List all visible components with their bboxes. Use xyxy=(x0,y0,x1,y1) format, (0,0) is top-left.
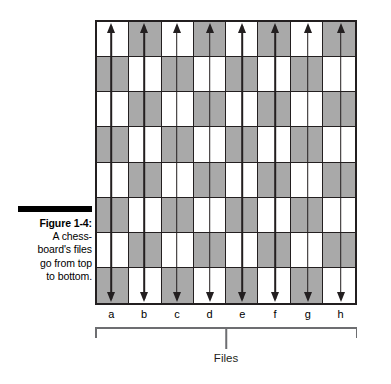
board-square xyxy=(291,268,323,303)
board-square xyxy=(194,92,226,127)
board-square xyxy=(323,268,355,303)
board-square xyxy=(162,233,194,268)
board-square xyxy=(323,22,355,57)
bracket-tick-right xyxy=(356,327,358,338)
board-square xyxy=(291,233,323,268)
board-square xyxy=(323,127,355,162)
caption-line-2: board's files xyxy=(38,243,92,255)
board-square xyxy=(129,57,161,92)
board-square xyxy=(323,92,355,127)
board-square xyxy=(194,233,226,268)
board-square xyxy=(291,22,323,57)
board-square xyxy=(226,92,258,127)
caption-line-1: A chess- xyxy=(53,230,92,242)
file-label-row: abcdefgh xyxy=(95,307,357,321)
board-square xyxy=(194,198,226,233)
board-square xyxy=(162,57,194,92)
figure-number-label: Figure 1-4: xyxy=(39,217,92,229)
file-label-b: b xyxy=(128,307,161,321)
board-square xyxy=(194,268,226,303)
chessboard xyxy=(95,20,357,305)
file-label-h: h xyxy=(324,307,357,321)
files-bracket xyxy=(95,327,357,341)
figure-caption-text: Figure 1-4: A chess- board's files go fr… xyxy=(18,217,92,283)
board-square xyxy=(129,268,161,303)
caption-rule xyxy=(18,206,92,212)
board-square xyxy=(129,198,161,233)
board-square xyxy=(258,198,290,233)
file-label-g: g xyxy=(292,307,325,321)
board-square xyxy=(97,22,129,57)
board-square xyxy=(162,268,194,303)
board-square xyxy=(323,198,355,233)
board-square xyxy=(226,127,258,162)
board-square xyxy=(162,22,194,57)
board-square xyxy=(226,163,258,198)
caption-line-4: to bottom. xyxy=(46,270,92,282)
board-square xyxy=(129,22,161,57)
board-square xyxy=(323,163,355,198)
board-square xyxy=(129,127,161,162)
board-square xyxy=(162,92,194,127)
board-square xyxy=(97,127,129,162)
board-square xyxy=(97,57,129,92)
board-square xyxy=(291,92,323,127)
board-square xyxy=(258,57,290,92)
board-square xyxy=(97,268,129,303)
board-square xyxy=(97,198,129,233)
board-square xyxy=(226,22,258,57)
bracket-stem xyxy=(225,327,227,349)
file-label-a: a xyxy=(95,307,128,321)
board-square xyxy=(323,233,355,268)
board-square xyxy=(129,92,161,127)
board-square xyxy=(226,233,258,268)
file-label-d: d xyxy=(193,307,226,321)
board-square xyxy=(97,163,129,198)
board-square xyxy=(97,233,129,268)
board-square xyxy=(194,163,226,198)
board-square xyxy=(258,233,290,268)
bracket-tick-left xyxy=(95,327,97,338)
board-square xyxy=(291,127,323,162)
board-square xyxy=(258,268,290,303)
figure-caption-block: Figure 1-4: A chess- board's files go fr… xyxy=(18,206,92,283)
board-square xyxy=(162,198,194,233)
board-square xyxy=(323,57,355,92)
board-square xyxy=(226,57,258,92)
caption-line-3: go from top xyxy=(40,257,92,269)
board-square xyxy=(258,163,290,198)
board-square xyxy=(162,127,194,162)
board-square xyxy=(291,198,323,233)
chessboard-grid xyxy=(95,20,357,305)
board-square xyxy=(291,163,323,198)
board-square xyxy=(194,127,226,162)
board-square xyxy=(258,22,290,57)
board-square xyxy=(258,127,290,162)
file-label-e: e xyxy=(226,307,259,321)
board-square xyxy=(129,163,161,198)
board-square xyxy=(194,57,226,92)
files-bracket-label: Files xyxy=(95,352,357,364)
board-square xyxy=(258,92,290,127)
board-square xyxy=(291,57,323,92)
board-square xyxy=(226,268,258,303)
board-square xyxy=(129,233,161,268)
board-square xyxy=(97,92,129,127)
board-square xyxy=(226,198,258,233)
board-square xyxy=(162,163,194,198)
file-label-f: f xyxy=(259,307,292,321)
board-square xyxy=(194,22,226,57)
file-label-c: c xyxy=(161,307,194,321)
